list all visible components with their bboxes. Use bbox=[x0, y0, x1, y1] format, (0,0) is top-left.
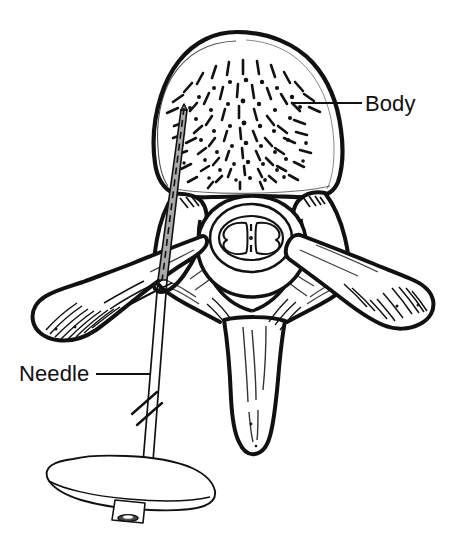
spinous-speck-b bbox=[255, 445, 258, 448]
gray-matter-right bbox=[256, 223, 280, 254]
hub-port-highlight bbox=[123, 515, 133, 519]
needle-label-text: Needle bbox=[19, 361, 89, 386]
spinous-speck-a bbox=[250, 423, 253, 426]
illustration-canvas: Body Needle bbox=[0, 0, 453, 541]
gray-matter-left bbox=[223, 223, 247, 254]
vertebra-needle-figure: Body Needle bbox=[0, 0, 453, 541]
central-canal bbox=[249, 236, 253, 240]
spinal-cord bbox=[219, 216, 283, 260]
right-tp-speck-a bbox=[396, 305, 399, 308]
body-label-text: Body bbox=[365, 91, 416, 116]
left-tp-speck-a bbox=[55, 328, 58, 331]
left-tp-speck-b bbox=[74, 326, 77, 329]
right-tp-speck-b bbox=[417, 304, 420, 307]
